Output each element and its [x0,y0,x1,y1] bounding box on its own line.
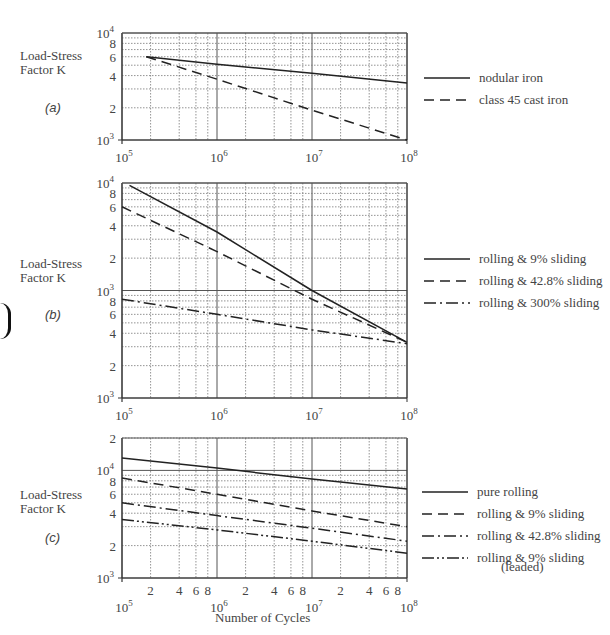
legend-sublabel: (leaded) [477,561,544,573]
svg-text:105: 105 [115,148,133,165]
svg-text:6: 6 [288,583,295,598]
svg-text:2: 2 [110,431,117,446]
svg-text:108: 108 [400,598,418,615]
svg-text:107: 107 [305,598,323,615]
svg-text:105: 105 [115,598,133,615]
svg-text:103: 103 [97,569,115,586]
svg-text:107: 107 [305,406,323,423]
svg-text:2: 2 [337,583,344,598]
series-line [146,57,407,140]
svg-text:8: 8 [110,186,117,201]
svg-text:106: 106 [210,598,228,615]
legend-item: rolling & 9% sliding [422,503,489,525]
series-line [122,207,407,342]
svg-text:4: 4 [271,583,278,598]
svg-text:8: 8 [395,583,402,598]
series-line [122,520,407,554]
legend-item: rolling & 42.8% sliding [422,525,489,547]
svg-text:6: 6 [110,487,117,502]
legend-label: rolling & 300% sliding [479,292,599,314]
dash-dot-dot-line-icon [422,551,470,565]
dashed-line-icon [424,274,472,288]
chart-panel-2: 10324681032468104105106107108 [97,174,419,423]
svg-text:8: 8 [110,474,117,489]
legend-label: nodular iron [479,67,543,89]
series-line [122,299,407,344]
svg-text:4: 4 [110,326,117,341]
svg-text:6: 6 [110,200,117,215]
legend-label: pure rolling [477,481,538,503]
svg-text:103: 103 [97,389,115,406]
svg-text:6: 6 [110,50,117,65]
legend-item: pure rolling [422,481,489,503]
svg-text:8: 8 [300,583,307,598]
dashed-line-icon [422,507,470,521]
svg-text:106: 106 [210,148,228,165]
svg-text:2: 2 [110,539,117,554]
legend-c: pure rolling rolling & 9% sliding rollin… [422,481,489,581]
chart-panel-1: 1032468104105106107108 [97,24,419,165]
svg-text:8: 8 [110,36,117,51]
svg-text:4: 4 [176,583,183,598]
legend-label: rolling & 42.8% sliding [479,270,603,292]
svg-text:4: 4 [110,506,117,521]
svg-text:2: 2 [147,583,154,598]
svg-text:2: 2 [110,359,117,374]
svg-text:6: 6 [110,307,117,322]
svg-text:4: 4 [366,583,373,598]
solid-line-icon [422,485,470,499]
chart-panel-3: 10324681042105246810624681072468108 [97,431,419,615]
series-line [130,185,408,342]
solid-line-icon [424,71,472,85]
dash-dot-line-icon [424,296,472,310]
svg-text:108: 108 [400,148,418,165]
svg-text:105: 105 [115,406,133,423]
legend-label: rolling & 9% sliding [477,503,584,525]
legend-label: class 45 cast iron [479,89,568,111]
dash-dot-line-icon [422,529,470,543]
dashed-line-icon [424,93,472,107]
svg-text:107: 107 [305,148,323,165]
svg-text:4: 4 [110,219,117,234]
legend-label: rolling & 42.8% sliding [477,525,601,547]
svg-text:106: 106 [210,406,228,423]
series-line [122,458,407,489]
svg-text:108: 108 [400,406,418,423]
svg-text:2: 2 [242,583,249,598]
series-line [122,503,407,541]
svg-text:8: 8 [110,294,117,309]
svg-text:2: 2 [110,101,117,116]
svg-text:6: 6 [193,583,200,598]
legend-label: rolling & 9% sliding [479,248,586,270]
svg-text:6: 6 [383,583,390,598]
svg-text:4: 4 [110,69,117,84]
solid-line-icon [424,252,472,266]
svg-text:103: 103 [97,131,115,148]
svg-text:2: 2 [110,251,117,266]
svg-text:8: 8 [205,583,212,598]
